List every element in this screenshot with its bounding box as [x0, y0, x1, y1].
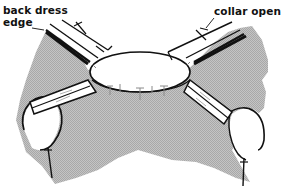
label-back-dress-line2: edge — [3, 16, 68, 28]
sewing-diagram: back dress edge collar open flat — [0, 0, 282, 192]
label-back-dress-line1: back dress — [3, 4, 68, 16]
leader-collar-open-flat — [206, 18, 214, 28]
leader-back-dress-edge — [32, 28, 44, 30]
diagram-artwork — [0, 0, 282, 192]
label-back-dress-edge: back dress edge — [3, 4, 68, 28]
label-collar-open-flat: collar open flat — [214, 5, 282, 17]
